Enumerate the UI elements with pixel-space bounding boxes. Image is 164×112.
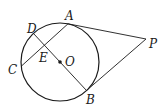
geometry-diagram: A D P C E O B <box>0 0 164 112</box>
label-p: P <box>148 37 158 51</box>
label-b: B <box>85 93 95 107</box>
center-dot-o <box>58 60 62 64</box>
label-a: A <box>64 9 74 23</box>
label-d: D <box>26 22 37 36</box>
label-e: E <box>38 51 48 65</box>
tangent-pa <box>68 24 146 39</box>
label-c: C <box>8 63 17 77</box>
label-o: O <box>65 55 75 69</box>
